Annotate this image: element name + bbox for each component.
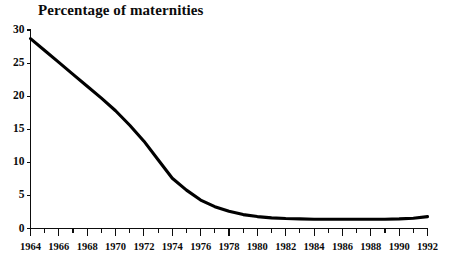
y-axis-tick-label: 0 — [3, 222, 25, 234]
x-axis-tick-label: 1992 — [411, 241, 445, 252]
data-series-line — [31, 39, 428, 220]
axes-group — [31, 30, 429, 229]
y-axis-tick-label: 15 — [3, 122, 25, 134]
y-axis-tick-label: 5 — [3, 188, 25, 200]
chart-figure: Percentage of maternities 051015202530 1… — [0, 0, 458, 275]
y-axis-ticks — [27, 30, 31, 229]
x-axis-ticks — [31, 229, 428, 236]
chart-plot-area — [0, 0, 458, 275]
y-axis-tick-label: 10 — [3, 155, 25, 167]
y-axis-tick-label: 30 — [3, 23, 25, 35]
y-axis-tick-label: 20 — [3, 89, 25, 101]
y-axis-tick-label: 25 — [3, 56, 25, 68]
